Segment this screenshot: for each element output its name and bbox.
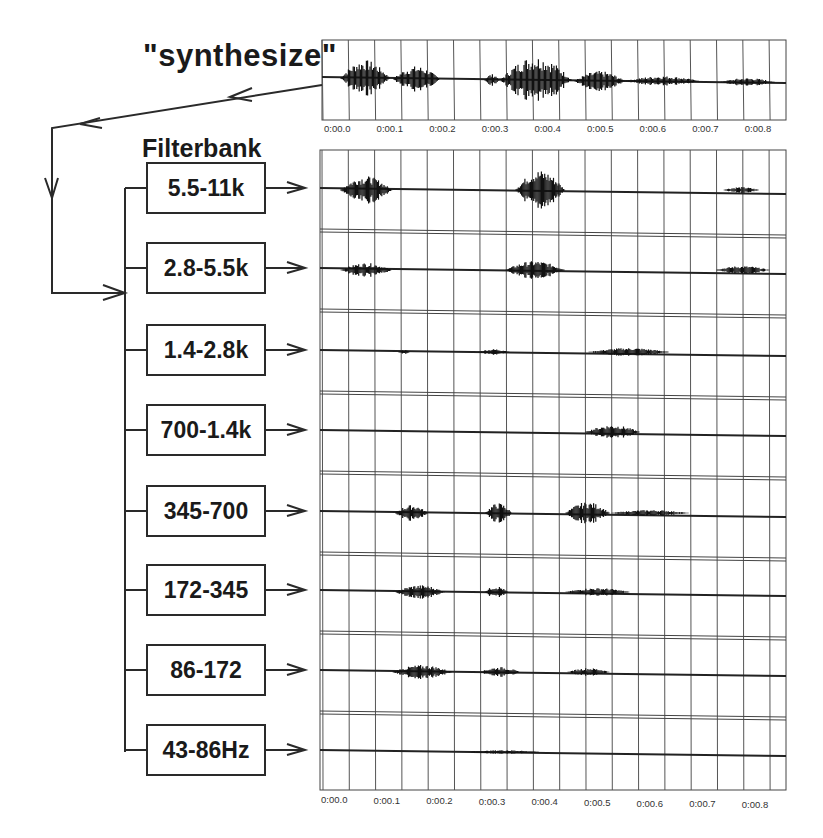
svg-text:0:00.7: 0:00.7 (689, 798, 715, 809)
svg-text:0:00.6: 0:00.6 (637, 798, 663, 809)
filter-band-box: 172-345 (146, 564, 266, 616)
filter-band-box: 86-172 (146, 644, 266, 696)
filter-band-box: 43-86Hz (146, 724, 266, 776)
filter-band-box: 2.8-5.5k (146, 242, 266, 294)
svg-text:0:00.4: 0:00.4 (531, 796, 557, 807)
filter-band-label: 86-172 (170, 657, 242, 684)
svg-text:0:00.1: 0:00.1 (374, 795, 400, 806)
filter-band-label: 700-1.4k (161, 417, 252, 444)
svg-text:0:00.2: 0:00.2 (429, 123, 455, 134)
filter-band-label: 345-700 (164, 498, 248, 525)
svg-text:0:00.6: 0:00.6 (640, 123, 666, 134)
filter-band-label: 1.4-2.8k (164, 337, 248, 364)
filter-band-label: 43-86Hz (163, 737, 250, 764)
filter-band-box: 1.4-2.8k (146, 324, 266, 376)
filter-band-box: 700-1.4k (146, 404, 266, 456)
svg-text:0:00.8: 0:00.8 (742, 799, 768, 810)
filter-band-label: 5.5-11k (168, 175, 245, 202)
svg-text:0:00.5: 0:00.5 (587, 123, 613, 134)
diagram-canvas: 0:00.00:00.10:00.20:00.30:00.40:00.50:00… (0, 0, 823, 838)
svg-text:0:00.3: 0:00.3 (482, 123, 508, 134)
filter-band-label: 2.8-5.5k (164, 255, 248, 282)
filter-band-label: 172-345 (164, 577, 248, 604)
filter-band-box: 5.5-11k (146, 162, 266, 214)
svg-text:0:00.0: 0:00.0 (324, 123, 350, 134)
svg-text:0:00.4: 0:00.4 (534, 123, 560, 134)
filterbank-output-panel: 0:00.00:00.10:00.20:00.30:00.40:00.50:00… (320, 150, 786, 810)
svg-text:0:00.3: 0:00.3 (479, 796, 505, 807)
input-waveform-panel: 0:00.00:00.10:00.20:00.30:00.40:00.50:00… (322, 40, 786, 134)
svg-text:0:00.2: 0:00.2 (426, 795, 452, 806)
svg-text:0:00.5: 0:00.5 (584, 797, 610, 808)
filter-band-box: 345-700 (146, 485, 266, 537)
svg-text:0:00.7: 0:00.7 (692, 123, 718, 134)
svg-text:0:00.0: 0:00.0 (321, 794, 347, 805)
svg-text:0:00.8: 0:00.8 (745, 123, 771, 134)
svg-text:0:00.1: 0:00.1 (377, 123, 403, 134)
